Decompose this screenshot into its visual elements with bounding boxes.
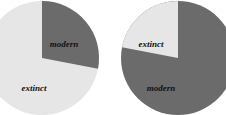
label-extinct-right: extinct	[139, 39, 164, 49]
label-extinct-left: extinct	[22, 83, 47, 93]
slice-modern-left	[42, 1, 99, 69]
label-modern-right: modern	[147, 83, 176, 93]
pie-right: extinct modern	[121, 1, 226, 115]
pie-left: modern extinct	[0, 1, 99, 115]
pie-charts: modern extinct extinct modern	[0, 0, 226, 115]
label-modern-left: modern	[50, 39, 79, 49]
